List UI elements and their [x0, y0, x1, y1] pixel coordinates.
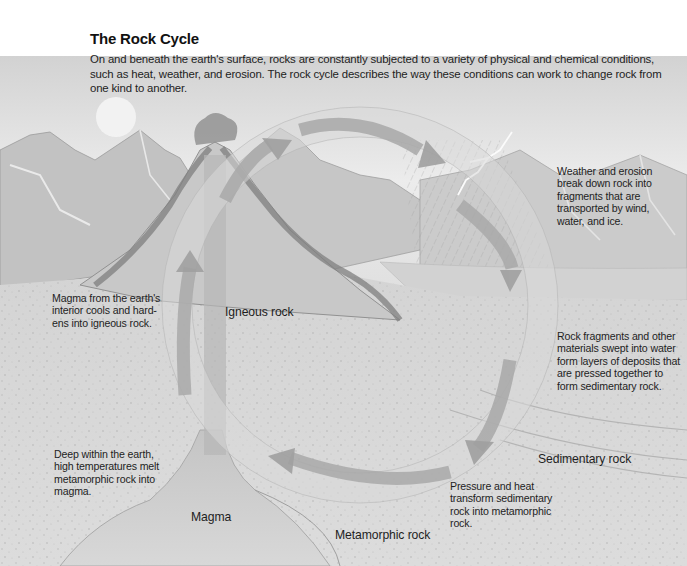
note-weathering: Weather and erosion break down rock into…	[557, 165, 679, 227]
note-cooling: Magma from the earth's interior cools an…	[52, 292, 170, 329]
note-melting: Deep within the earth, high temperatures…	[54, 448, 172, 498]
header: The Rock Cycle On and beneath the earth'…	[90, 30, 680, 96]
sun	[96, 97, 136, 137]
note-metamorphism: Pressure and heat transform sedimentary …	[450, 480, 554, 530]
label-sedimentary-rock: Sedimentary rock	[538, 452, 631, 466]
note-deposition: Rock fragments and other materials swept…	[557, 330, 683, 392]
label-magma: Magma	[191, 510, 231, 524]
page-title: The Rock Cycle	[90, 30, 680, 47]
label-metamorphic-rock: Metamorphic rock	[335, 528, 430, 542]
intro-text: On and beneath the earth's surface, rock…	[90, 52, 680, 96]
label-igneous-rock: Igneous rock	[225, 305, 294, 319]
